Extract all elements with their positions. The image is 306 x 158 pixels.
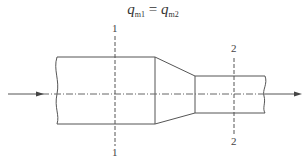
inlet-arrow-icon — [36, 92, 44, 97]
section-2-top-label: 2 — [231, 42, 237, 54]
pipe-diagram: 1 1 2 2 — [0, 0, 306, 158]
large-pipe — [56, 57, 155, 124]
section-2-bottom-label: 2 — [231, 135, 237, 147]
section-1-top-label: 1 — [112, 22, 118, 34]
outlet-arrow-icon — [294, 92, 302, 97]
section-1-bottom-label: 1 — [112, 146, 118, 158]
reducer-cone — [155, 57, 195, 124]
